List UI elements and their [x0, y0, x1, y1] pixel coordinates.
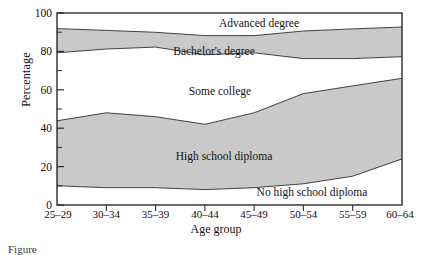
x-tick-label-45-49: 45–49 — [240, 208, 268, 220]
band-label-advanced-degree: Advanced degree — [219, 17, 299, 29]
band-label-no-high-school-diploma: No high school diploma — [257, 186, 368, 198]
x-tick-label-50-54: 50–54 — [290, 208, 318, 220]
x-axis-title: Age group — [0, 222, 432, 237]
band-label-some-college: Some college — [189, 85, 251, 97]
x-tick-label-35-39: 35–39 — [142, 208, 170, 220]
figure-caption: Figure — [8, 243, 37, 255]
x-tick-label-60-64: 60–64 — [386, 208, 414, 220]
band-label-high-school-diploma: High school diploma — [176, 150, 272, 162]
x-tick-label-55-59: 55–59 — [339, 208, 367, 220]
x-tick-label-40-44: 40–44 — [191, 208, 219, 220]
band-label-bachelors-degree: Bachelor's degree — [173, 45, 255, 57]
x-tick-label-30-34: 30–34 — [93, 208, 121, 220]
x-tick-label-25-29: 25–29 — [44, 208, 72, 220]
